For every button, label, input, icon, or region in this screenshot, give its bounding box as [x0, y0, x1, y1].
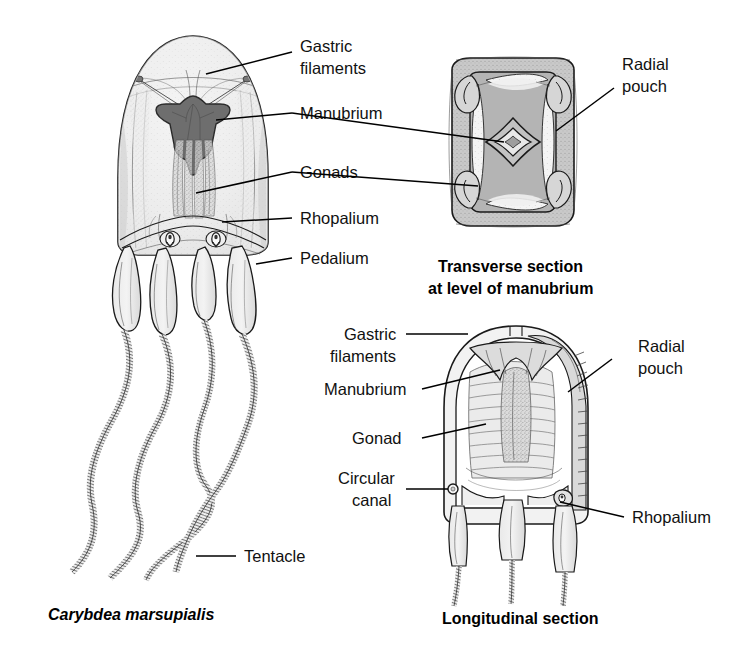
label-gastric-filaments-line1: Gastric [300, 37, 352, 55]
rhopalium-ocellus [214, 235, 217, 239]
label-long-gastric-filaments-line1: Gastric [344, 325, 396, 343]
manubrium-column [501, 368, 531, 463]
caption-transverse-line2: at level of manubrium [428, 280, 593, 297]
label-tentacle: Tentacle [244, 547, 305, 565]
label-rhopalium: Rhopalium [300, 209, 379, 227]
label-long-gonad: Gonad [352, 429, 402, 447]
pedalium [449, 506, 467, 566]
label-long-circular-canal-line1: Circular [338, 469, 395, 487]
label-long-gastric-filaments-line2: filaments [330, 347, 396, 365]
label-long-rhopalium: Rhopalium [632, 508, 711, 526]
gonad-sheet [184, 140, 193, 218]
rhopalium-ocellus [561, 496, 564, 499]
rhopalium-right [206, 231, 226, 247]
gonad-sheet [194, 140, 203, 218]
label-long-radial-pouch-line1: Radial [638, 337, 685, 355]
label-long-radial-pouch-line2: pouch [638, 359, 683, 377]
label-transverse-radial-pouch-line1: Radial [622, 55, 669, 73]
rhopalium-left [160, 231, 180, 247]
label-long-manubrium: Manubrium [324, 380, 407, 398]
label-long-circular-canal-line2: canal [352, 491, 391, 509]
pedalium [553, 506, 577, 572]
figure-carybdea-anatomy: Gastric filaments Manubrium Gonads Rhopa… [0, 0, 752, 659]
caption-transverse-line1: Transverse section [438, 258, 583, 275]
label-transverse-radial-pouch-line2: pouch [622, 77, 667, 95]
gonad-sheet [173, 140, 184, 216]
pedalium [499, 500, 525, 560]
caption-longitudinal: Longitudinal section [442, 610, 598, 627]
rhopalium-ocellus [168, 235, 171, 239]
label-gastric-filaments-line2: filaments [300, 59, 366, 77]
caption-species: Carybdea marsupialis [48, 606, 214, 623]
circular-canal-lumen [451, 487, 455, 491]
label-pedalium: Pedalium [300, 249, 369, 267]
label-gonads: Gonads [300, 163, 358, 181]
